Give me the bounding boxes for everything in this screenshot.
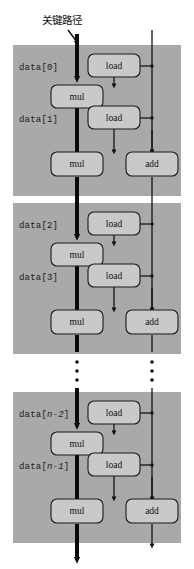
iteration-label-data-1: data[1] bbox=[19, 115, 58, 125]
ellipsis-critical-dot-3 bbox=[75, 378, 79, 382]
junction-dot-index-3 bbox=[150, 222, 153, 225]
iteration-label-data-3: data[3] bbox=[19, 273, 58, 283]
node-load-2-label: load bbox=[106, 219, 123, 229]
node-add-1-label: add bbox=[145, 159, 159, 169]
junction-dot-index-6 bbox=[150, 463, 153, 466]
node-load-3-label: load bbox=[106, 271, 123, 281]
node-mul-n1-label: mul bbox=[70, 506, 85, 516]
junction-dot-index-5 bbox=[150, 411, 153, 414]
junction-dot-index-4 bbox=[150, 274, 153, 277]
ellipsis-right-dot-1 bbox=[150, 360, 154, 364]
ellipsis-right-dot-3 bbox=[150, 378, 154, 382]
node-mul-2-label: mul bbox=[70, 250, 85, 260]
ellipsis-critical-dot-1 bbox=[75, 360, 79, 364]
node-load-1-label: load bbox=[106, 113, 123, 123]
node-load-n2-label: load bbox=[106, 408, 123, 418]
node-mul-1-label: mul bbox=[70, 159, 85, 169]
diagram-canvas: load mul load mul add load mul load mul … bbox=[0, 0, 194, 569]
node-mul-0-label: mul bbox=[70, 92, 85, 102]
node-load-0-label: load bbox=[106, 61, 123, 71]
node-add-3-label: add bbox=[145, 317, 159, 327]
iteration-label-data-0: data[0] bbox=[19, 63, 58, 73]
node-add-n1-label: add bbox=[145, 506, 159, 516]
junction-dot-index-1 bbox=[150, 64, 153, 67]
iteration-label-data-n-1: data[n-1] bbox=[19, 462, 69, 472]
iteration-label-data-2: data[2] bbox=[19, 221, 58, 231]
iteration-label-data-n-2: data[n-2] bbox=[19, 410, 69, 420]
ellipsis-critical-dot-2 bbox=[75, 369, 79, 373]
junction-dot-index-2 bbox=[150, 116, 153, 119]
ellipsis-right-dot-2 bbox=[150, 369, 154, 373]
callout-label: 关键路径 bbox=[42, 14, 83, 26]
node-mul-n2-label: mul bbox=[70, 439, 85, 449]
node-load-n1-label: load bbox=[106, 460, 123, 470]
node-mul-3-label: mul bbox=[70, 317, 85, 327]
critical-path-diagram: load mul load mul add load mul load mul … bbox=[0, 0, 194, 569]
